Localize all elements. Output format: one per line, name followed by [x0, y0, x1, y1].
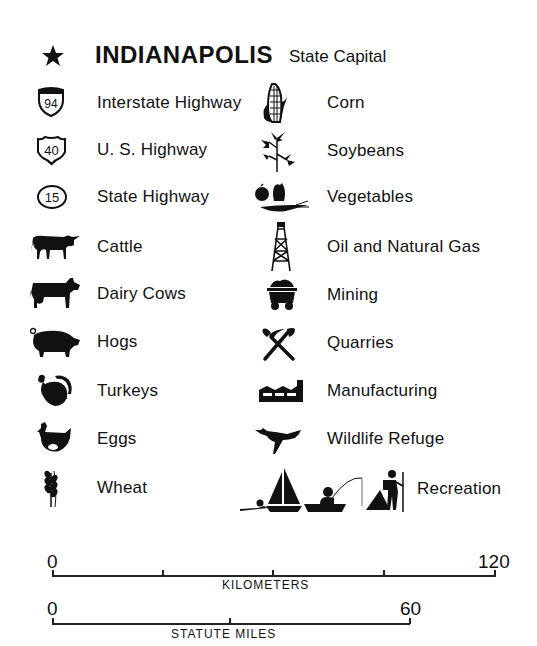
oil-derrick-icon	[270, 221, 292, 273]
capital-label: State Capital	[289, 47, 386, 67]
factory-icon	[257, 378, 309, 404]
km-scale-title: KILOMETERS	[222, 578, 309, 592]
mi-scale-title: STATUTE MILES	[171, 627, 276, 641]
sailboat-icon	[266, 468, 302, 512]
fisherman-icon	[304, 478, 362, 512]
interstate-shield-icon: 94	[36, 86, 66, 118]
legend-label-wildlife-refuge: Wildlife Refuge	[327, 429, 444, 449]
legend-label-dairy-cows: Dairy Cows	[97, 284, 186, 304]
legend-label-vegetables: Vegetables	[327, 187, 413, 207]
legend-label-wheat: Wheat	[97, 478, 147, 498]
turkey-icon	[33, 372, 75, 410]
legend-label-mining: Mining	[327, 285, 378, 305]
vegetables-icon	[252, 181, 310, 217]
legend-label-cattle: Cattle	[97, 237, 143, 257]
hog-icon	[28, 326, 82, 360]
dairy-cow-icon	[28, 275, 82, 311]
mine-cart-icon	[264, 277, 300, 313]
legend-label-recreation: Recreation	[417, 479, 501, 499]
svg-text:94: 94	[44, 97, 58, 111]
legend-label-soybeans: Soybeans	[327, 141, 404, 161]
capital-name: INDIANAPOLIS	[95, 41, 273, 69]
legend-label-state-highway: State Highway	[97, 187, 209, 207]
star-icon	[41, 44, 65, 68]
hen-icon	[35, 420, 73, 456]
flying-goose-icon	[253, 426, 307, 456]
legend-label-eggs: Eggs	[97, 429, 137, 449]
soybean-plant-icon	[257, 130, 297, 174]
legend-label-manufacturing: Manufacturing	[327, 381, 437, 401]
recreation-icon	[238, 466, 408, 514]
mi-scale-start: 0	[47, 598, 58, 620]
legend-label-oil-gas: Oil and Natural Gas	[327, 237, 480, 257]
mi-scale-end: 60	[400, 598, 421, 620]
legend-label-hogs: Hogs	[97, 332, 138, 352]
legend-label-quarries: Quarries	[327, 333, 394, 353]
swimmer-icon	[240, 500, 268, 512]
legend-label-interstate: Interstate Highway	[97, 93, 241, 113]
svg-text:40: 40	[44, 143, 58, 158]
cattle-icon	[30, 232, 82, 262]
state-highway-oval-icon: 15	[36, 184, 68, 210]
us-highway-shield-icon: 40	[35, 134, 68, 166]
legend-label-us-highway: U. S. Highway	[97, 140, 207, 160]
legend-label-corn: Corn	[327, 93, 365, 113]
pick-and-shovel-icon	[261, 325, 297, 363]
corn-icon	[258, 82, 292, 124]
svg-text:15: 15	[45, 190, 59, 205]
hiker-icon	[366, 470, 403, 512]
wheat-icon	[40, 467, 62, 509]
legend-label-turkeys: Turkeys	[97, 381, 158, 401]
